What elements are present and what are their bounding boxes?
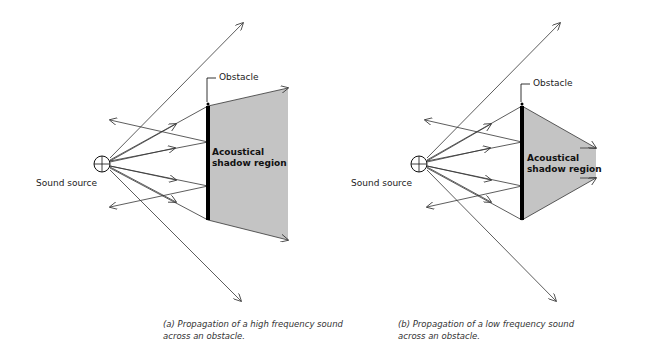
- shadow-region-line2-b: shadow region: [527, 164, 602, 175]
- caption-b-line1: (b) Propagation of a low frequency sound: [398, 318, 574, 330]
- ray-reflect-bottom-a: [110, 186, 208, 207]
- ray-arrow-a1: [110, 124, 176, 161]
- caption-a: (a) Propagation of a high frequency soun…: [163, 318, 343, 342]
- shadow-region-label-b: Acoustical shadow region: [527, 153, 602, 175]
- ray-arrow-a4: [110, 167, 176, 202]
- obstacle-label-b: Obstacle: [533, 78, 573, 89]
- caption-a-line1: (a) Propagation of a high frequency soun…: [163, 318, 343, 330]
- caption-b-line2: across an obstacle.: [398, 330, 574, 342]
- obstacle-tip-b: [521, 103, 524, 106]
- ray-arrow-b1: [427, 124, 491, 161]
- ray-reflect-bottom-b: [427, 186, 522, 207]
- shadow-region-line1-b: Acoustical: [527, 153, 602, 164]
- shadow-region-line1-a: Acoustical: [212, 147, 287, 158]
- sound-source-label-a: Sound source: [36, 178, 97, 189]
- ray-arrow-b4: [427, 167, 491, 202]
- sound-source-label-b: Sound source: [351, 178, 412, 189]
- obstacle-label-a: Obstacle: [219, 72, 259, 83]
- obstacle-leader-b: [521, 84, 530, 102]
- caption-a-line2: across an obstacle.: [163, 330, 343, 342]
- shadow-region-line2-a: shadow region: [212, 158, 287, 169]
- ray-reflect-top-a: [110, 120, 208, 142]
- caption-b: (b) Propagation of a low frequency sound…: [398, 318, 574, 342]
- diagram-canvas: [0, 0, 649, 355]
- ray-reflect-top-b: [425, 120, 522, 142]
- obstacle-leader-a: [207, 78, 216, 102]
- shadow-region-label-a: Acoustical shadow region: [212, 147, 287, 169]
- obstacle-tip-a: [207, 103, 210, 106]
